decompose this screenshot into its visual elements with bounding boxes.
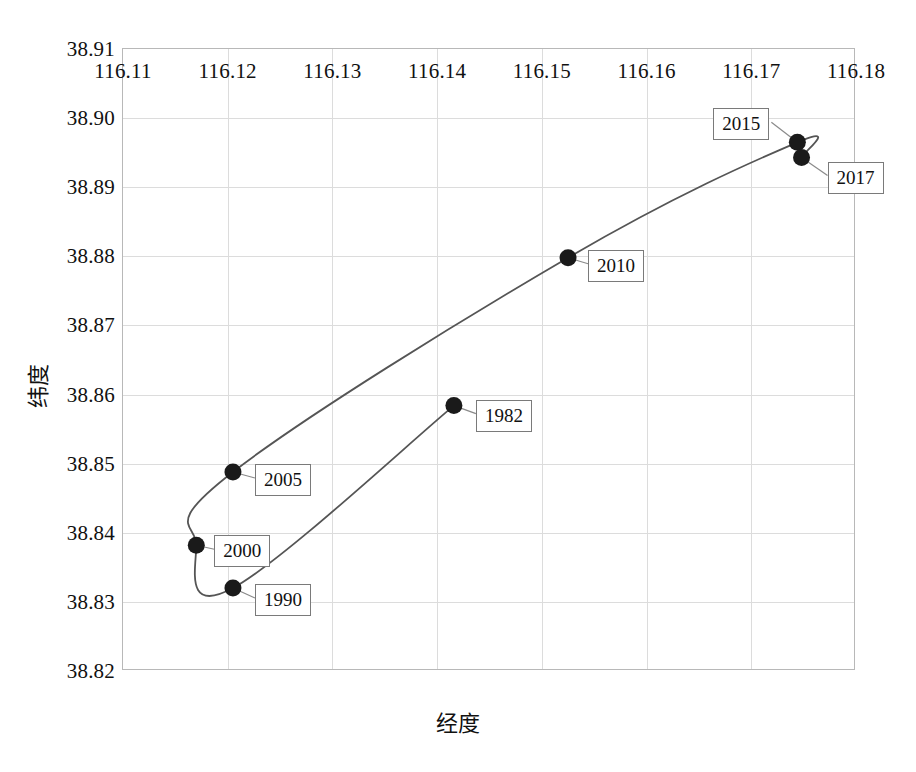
y-axis-title: 纬度 <box>20 364 52 408</box>
y-tick-label: 38.85 <box>67 453 115 474</box>
x-tick-label: 116.15 <box>513 61 571 82</box>
point-label-callout: 2017 <box>828 162 884 194</box>
data-point-marker[interactable] <box>224 463 241 480</box>
point-label-callout: 2010 <box>588 250 644 282</box>
x-tick-label: 116.12 <box>199 61 257 82</box>
x-tick-label: 116.18 <box>827 61 885 82</box>
point-label-callout: 1990 <box>255 584 311 616</box>
x-tick-label: 116.17 <box>722 61 780 82</box>
x-axis-title: 经度 <box>0 705 916 737</box>
data-series-layer <box>123 49 856 671</box>
point-label-callout: 2000 <box>214 535 270 567</box>
data-point-marker[interactable] <box>188 537 205 554</box>
y-tick-label: 38.89 <box>67 177 115 198</box>
data-point-marker[interactable] <box>789 134 806 151</box>
data-point-marker[interactable] <box>560 249 577 266</box>
point-label-callout: 2005 <box>255 464 311 496</box>
y-tick-label: 38.87 <box>67 315 115 336</box>
x-tick-label: 116.11 <box>94 61 151 82</box>
x-tick-label: 116.14 <box>408 61 466 82</box>
y-tick-label: 38.86 <box>67 384 115 405</box>
y-tick-label: 38.90 <box>67 108 115 129</box>
y-tick-label: 38.83 <box>67 591 115 612</box>
series-line <box>188 136 818 596</box>
point-label-callout: 1982 <box>476 400 532 432</box>
point-label-callout: 2015 <box>713 108 769 140</box>
y-tick-label: 38.88 <box>67 246 115 267</box>
data-point-marker[interactable] <box>793 149 810 166</box>
x-tick-label: 116.13 <box>303 61 361 82</box>
data-point-marker[interactable] <box>445 397 462 414</box>
plot-area: 38.8238.8338.8438.8538.8638.8738.8838.89… <box>122 48 855 670</box>
y-tick-label: 38.91 <box>67 39 115 60</box>
centroid-migration-chart: 38.8238.8338.8438.8538.8638.8738.8838.89… <box>0 0 916 772</box>
data-point-marker[interactable] <box>224 580 241 597</box>
figure-caption <box>0 757 916 772</box>
y-tick-label: 38.84 <box>67 522 115 543</box>
x-tick-label: 116.16 <box>617 61 675 82</box>
y-tick-label: 38.82 <box>67 661 115 682</box>
